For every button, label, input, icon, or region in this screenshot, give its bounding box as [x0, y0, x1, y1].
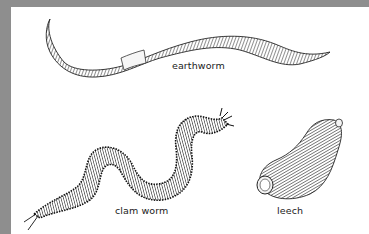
leech-label: leech — [277, 205, 303, 216]
worm-illustration: earthworm clam worm leech — [0, 0, 369, 234]
clam-worm-label: clam worm — [115, 205, 168, 216]
earthworm-label: earthworm — [172, 60, 225, 71]
leech-drawing — [257, 119, 343, 199]
illustration-canvas — [0, 0, 369, 234]
